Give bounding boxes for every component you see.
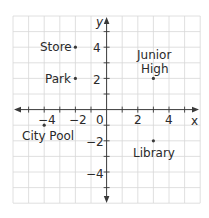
point-city-pool — [43, 124, 46, 127]
y-tick-label: 2 — [93, 73, 101, 87]
label-city-pool: City Pool — [22, 129, 74, 143]
x-tick-label: 2 — [134, 113, 142, 127]
y-axis-label: y — [95, 15, 104, 29]
x-tick-label: 4 — [165, 113, 173, 127]
x-axis-label: x — [191, 114, 198, 128]
point-library — [152, 139, 155, 142]
coordinate-plane: y x −4 −2 0 2 4 4 2 −2 −4 Store Park Jun… — [0, 0, 209, 218]
label-park: Park — [45, 72, 71, 86]
point-store — [74, 46, 77, 49]
x-axis-left-arrow-icon — [14, 107, 21, 113]
y-axis-down-arrow-icon — [104, 196, 110, 203]
label-library: Library — [133, 146, 175, 160]
y-tick-label: −2 — [86, 135, 104, 149]
x-tick-label: −2 — [69, 113, 87, 127]
x-axis-right-arrow-icon — [192, 107, 199, 113]
y-tick-label: −4 — [86, 167, 104, 181]
y-tick-label: 4 — [93, 41, 101, 55]
x-tick-label: −4 — [38, 113, 56, 127]
label-junior: Junior — [136, 48, 171, 62]
origin-label: 0 — [96, 113, 104, 127]
label-high: High — [141, 62, 169, 76]
point-junior-high — [152, 77, 155, 80]
label-store: Store — [40, 40, 72, 54]
y-axis-up-arrow-icon — [104, 17, 110, 24]
point-park — [74, 77, 77, 80]
